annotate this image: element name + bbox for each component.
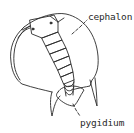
pygidium-ring-3 <box>66 91 73 95</box>
inner-rim-left <box>14 26 30 80</box>
pygidium-leader-line <box>73 104 80 116</box>
pygidium-ring-2 <box>65 87 74 91</box>
cephalon-leader-line <box>72 20 87 34</box>
left-genal-spine <box>51 92 61 116</box>
pygidium-label: pygidium <box>80 118 124 128</box>
glabella <box>30 16 58 38</box>
thorax-seg-6 <box>61 72 74 84</box>
left-eye-icon <box>32 28 34 30</box>
trilobite-diagram: cephalon pygidium <box>0 0 134 133</box>
right-eye-icon <box>50 22 52 24</box>
cephalon-label: cephalon <box>88 12 132 22</box>
pygidium-shield <box>57 86 85 106</box>
